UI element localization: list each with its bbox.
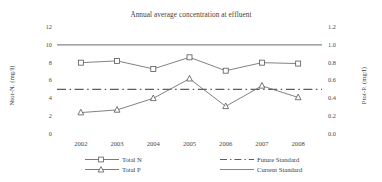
y-tick-right-0-6: 0.6	[328, 76, 352, 83]
y-tick-right-0-2: 0.2	[328, 112, 352, 119]
chart-figure: Annual average concentration at effluent…	[0, 0, 382, 182]
legend-item-future-standard: Future Standard	[220, 155, 299, 164]
legend-item-total-n: Total N	[85, 155, 142, 164]
y-tick-left-2: 2	[30, 112, 52, 119]
y-tick-right-0-0: 0.0	[328, 130, 352, 137]
series-total-p	[78, 75, 301, 115]
chart-title: Annual average concentration at effluent	[0, 11, 382, 19]
legend-item-total-p: Total P	[85, 165, 141, 174]
legend-item-current-standard: Current Standard	[220, 165, 302, 174]
legend-swatch-total-n	[85, 155, 119, 164]
y-axis-label-left: Ntot-N. (mg/l)	[8, 56, 15, 116]
y-tick-left-0: 0	[30, 130, 52, 137]
y-tick-right-1-2: 1.2	[328, 23, 352, 30]
x-tick-2003: 2003	[100, 140, 134, 147]
legend-label-total-p: Total P	[122, 165, 141, 174]
legend-swatch-current-standard	[220, 165, 254, 174]
y-tick-right-1-0: 1.0	[328, 41, 352, 48]
x-tick-2004: 2004	[136, 140, 170, 147]
x-tick-2008: 2008	[281, 140, 315, 147]
x-tick-2006: 2006	[209, 140, 243, 147]
y-tick-left-4: 4	[30, 94, 52, 101]
plot-area	[57, 27, 322, 134]
x-tick-2007: 2007	[245, 140, 279, 147]
y-axis-label-right: Ptot-P. (mg/l)	[360, 56, 367, 116]
y-tick-right-0-4: 0.4	[328, 94, 352, 101]
legend-label-future-standard: Future Standard	[257, 155, 299, 164]
x-tick-2005: 2005	[173, 140, 207, 147]
chart-legend: Total N Total P Future Standard Current …	[57, 155, 347, 179]
legend-swatch-future-standard	[220, 155, 254, 164]
legend-label-total-n: Total N	[122, 155, 142, 164]
x-tick-2002: 2002	[64, 140, 98, 147]
legend-label-current-standard: Current Standard	[257, 165, 302, 174]
plot-svg	[57, 27, 322, 134]
legend-swatch-total-p	[85, 165, 119, 174]
y-tick-left-12: 12	[30, 23, 52, 30]
series-total-n	[78, 55, 300, 73]
y-tick-left-6: 6	[30, 76, 52, 83]
y-tick-left-10: 10	[30, 41, 52, 48]
y-tick-left-8: 8	[30, 59, 52, 66]
y-tick-right-0-8: 0.8	[328, 59, 352, 66]
